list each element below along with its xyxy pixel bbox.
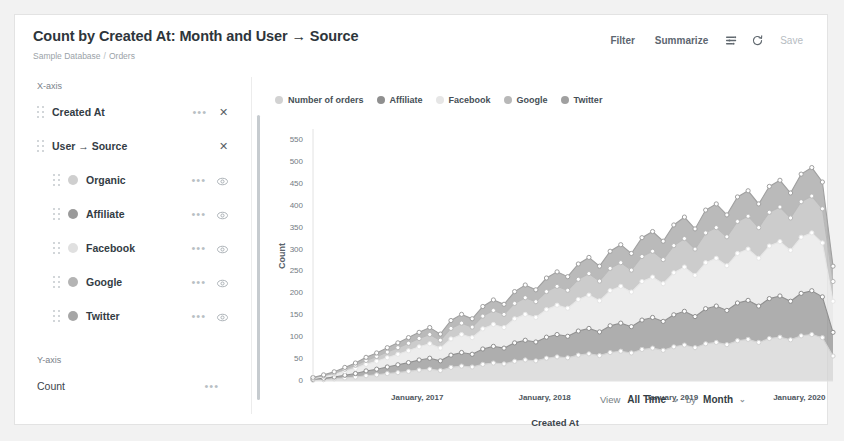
data-point-marker[interactable] [629, 251, 633, 255]
data-point-marker[interactable] [619, 243, 623, 247]
sidebar-item-count[interactable]: Count ••• [15, 369, 243, 403]
data-point-marker[interactable] [619, 321, 623, 325]
data-point-marker[interactable] [502, 362, 506, 366]
data-point-marker[interactable] [428, 367, 432, 371]
data-point-marker[interactable] [523, 312, 527, 316]
data-point-marker[interactable] [608, 350, 612, 354]
data-point-marker[interactable] [375, 367, 379, 371]
data-point-marker[interactable] [417, 368, 421, 372]
legend-item-number-of-orders[interactable]: Number of orders [275, 95, 364, 105]
data-point-marker[interactable] [566, 306, 570, 310]
data-point-marker[interactable] [406, 360, 410, 364]
data-point-marker[interactable] [757, 304, 761, 308]
data-point-marker[interactable] [481, 362, 485, 366]
more-options-icon[interactable]: ••• [191, 311, 206, 322]
series-color-swatch[interactable] [68, 243, 78, 253]
data-point-marker[interactable] [650, 346, 654, 350]
data-point-marker[interactable] [576, 329, 580, 333]
drag-handle-icon[interactable] [53, 242, 61, 254]
summarize-button[interactable]: Summarize [645, 30, 718, 51]
data-point-marker[interactable] [757, 202, 761, 206]
data-point-marker[interactable] [608, 266, 612, 270]
data-point-marker[interactable] [640, 318, 644, 322]
data-point-marker[interactable] [725, 308, 729, 312]
data-point-marker[interactable] [459, 321, 463, 325]
data-point-marker[interactable] [470, 352, 474, 356]
data-point-marker[interactable] [778, 205, 782, 209]
data-point-marker[interactable] [523, 296, 527, 300]
data-point-marker[interactable] [566, 275, 570, 279]
data-point-marker[interactable] [396, 352, 400, 356]
data-point-marker[interactable] [587, 293, 591, 297]
data-point-marker[interactable] [640, 254, 644, 258]
data-point-marker[interactable] [566, 288, 570, 292]
data-point-marker[interactable] [831, 264, 835, 268]
data-point-marker[interactable] [534, 359, 538, 363]
data-point-marker[interactable] [544, 307, 548, 311]
sidebar-series-affiliate[interactable]: Affiliate ••• [15, 197, 243, 231]
data-point-marker[interactable] [682, 343, 686, 347]
data-point-marker[interactable] [640, 279, 644, 283]
data-point-marker[interactable] [587, 255, 591, 259]
data-point-marker[interactable] [406, 369, 410, 373]
data-point-marker[interactable] [555, 355, 559, 359]
data-point-marker[interactable] [375, 373, 379, 377]
data-point-marker[interactable] [576, 277, 580, 281]
data-point-marker[interactable] [629, 290, 633, 294]
data-point-marker[interactable] [332, 370, 336, 374]
data-point-marker[interactable] [597, 330, 601, 334]
data-point-marker[interactable] [502, 302, 506, 306]
data-point-marker[interactable] [650, 315, 654, 319]
data-point-marker[interactable] [587, 352, 591, 356]
data-point-marker[interactable] [704, 208, 708, 212]
data-point-marker[interactable] [672, 345, 676, 349]
data-point-marker[interactable] [513, 301, 517, 305]
data-point-marker[interactable] [619, 261, 623, 265]
data-point-marker[interactable] [693, 247, 697, 251]
data-point-marker[interactable] [767, 210, 771, 214]
data-point-marker[interactable] [428, 325, 432, 329]
data-point-marker[interactable] [576, 262, 580, 266]
data-point-marker[interactable] [364, 355, 368, 359]
data-point-marker[interactable] [799, 291, 803, 295]
data-point-marker[interactable] [364, 369, 368, 373]
data-point-marker[interactable] [799, 334, 803, 338]
data-point-marker[interactable] [555, 332, 559, 336]
data-point-marker[interactable] [810, 289, 814, 293]
data-point-marker[interactable] [406, 336, 410, 340]
data-point-marker[interactable] [735, 339, 739, 343]
data-point-marker[interactable] [428, 342, 432, 346]
sidebar-series-twitter[interactable]: Twitter ••• [15, 299, 243, 333]
data-point-marker[interactable] [385, 371, 389, 375]
data-point-marker[interactable] [767, 297, 771, 301]
data-point-marker[interactable] [735, 219, 739, 223]
data-point-marker[interactable] [449, 318, 453, 322]
data-point-marker[interactable] [629, 325, 633, 329]
data-point-marker[interactable] [481, 327, 485, 331]
data-point-marker[interactable] [725, 235, 729, 239]
data-point-marker[interactable] [704, 261, 708, 265]
legend-item-facebook[interactable]: Facebook [436, 95, 491, 105]
data-point-marker[interactable] [534, 340, 538, 344]
data-point-marker[interactable] [629, 351, 633, 355]
data-point-marker[interactable] [428, 332, 432, 336]
data-point-marker[interactable] [459, 312, 463, 316]
sidebar-item-user-source[interactable]: User → Source ✕ [15, 129, 243, 163]
more-options-icon[interactable]: ••• [191, 277, 206, 288]
data-point-marker[interactable] [417, 336, 421, 340]
sidebar-series-organic[interactable]: Organic ••• [15, 163, 243, 197]
data-point-marker[interactable] [672, 271, 676, 275]
data-point-marker[interactable] [608, 324, 612, 328]
data-point-marker[interactable] [502, 346, 506, 350]
data-point-marker[interactable] [523, 283, 527, 287]
data-point-marker[interactable] [735, 195, 739, 199]
data-point-marker[interactable] [788, 299, 792, 303]
data-point-marker[interactable] [778, 335, 782, 339]
data-point-marker[interactable] [587, 272, 591, 276]
data-point-marker[interactable] [810, 194, 814, 198]
data-point-marker[interactable] [788, 216, 792, 220]
sidebar-series-facebook[interactable]: Facebook ••• [15, 231, 243, 265]
data-point-marker[interactable] [417, 358, 421, 362]
more-options-icon[interactable]: ••• [204, 381, 219, 392]
series-color-swatch[interactable] [68, 277, 78, 287]
